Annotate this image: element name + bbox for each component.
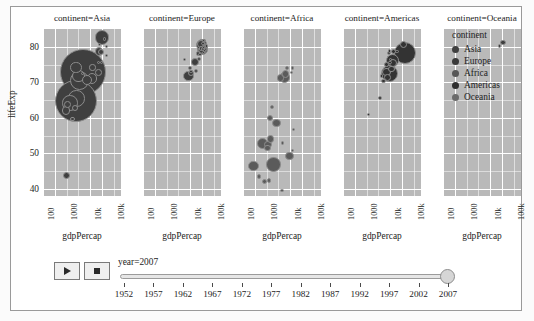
legend-item-africa[interactable]: Africa (452, 67, 526, 79)
grid-line-horizontal (243, 118, 321, 119)
slider-tick-label[interactable]: 1972 (233, 289, 251, 299)
y-axis-tick: 70 (30, 77, 39, 87)
data-point[interactable] (380, 74, 383, 77)
x-axis-tick: 100k (517, 203, 526, 220)
slider-tick-label[interactable]: 1977 (262, 289, 280, 299)
data-point[interactable] (400, 41, 407, 48)
pause-button[interactable] (84, 262, 110, 280)
slider-tick-mark (419, 283, 420, 287)
data-point[interactable] (257, 174, 261, 178)
data-point[interactable] (291, 149, 294, 152)
data-point[interactable] (81, 72, 84, 75)
legend-item-asia[interactable]: Asia (452, 43, 526, 55)
grid-line-horizontal (43, 171, 121, 172)
x-axis-tick: 10k (494, 207, 503, 220)
slider-handle[interactable] (440, 269, 455, 284)
grid-line-horizontal (243, 100, 321, 101)
data-point[interactable] (205, 44, 208, 47)
data-point[interactable] (202, 39, 205, 42)
data-point[interactable] (285, 152, 293, 160)
data-point[interactable] (100, 61, 103, 64)
slider-rail[interactable] (120, 274, 450, 279)
slider-tick-label[interactable]: 1982 (292, 289, 310, 299)
legend-item-label: Americas (464, 79, 500, 91)
play-button[interactable] (54, 262, 80, 280)
y-axis-tick: 80 (30, 42, 39, 52)
legend-item-label: Africa (464, 67, 488, 79)
data-point[interactable] (280, 189, 283, 192)
slider-tick-label[interactable]: 1962 (174, 289, 192, 299)
legend-item-americas[interactable]: Americas (452, 79, 526, 91)
legend-marker-icon (452, 82, 459, 89)
data-point[interactable] (267, 115, 273, 121)
grid-line-horizontal (343, 171, 421, 172)
data-point[interactable] (367, 113, 371, 117)
data-point[interactable] (291, 66, 294, 69)
data-point[interactable] (105, 54, 108, 57)
data-point[interactable] (63, 172, 70, 179)
slider-tick-label[interactable]: 1997 (380, 289, 398, 299)
plot-area[interactable] (43, 29, 121, 196)
slider-tick-label[interactable]: 1957 (144, 289, 162, 299)
data-point[interactable] (272, 119, 280, 127)
slider-tick-label[interactable]: 1952 (115, 289, 133, 299)
data-point[interactable] (270, 105, 274, 109)
x-axis-tick: 100 (147, 207, 156, 220)
grid-line-horizontal (343, 118, 421, 119)
data-point[interactable] (103, 37, 106, 40)
grid-line-horizontal (343, 65, 421, 66)
slider-tick-label[interactable]: 2007 (439, 289, 457, 299)
data-point[interactable] (395, 50, 398, 53)
data-point[interactable] (105, 45, 108, 48)
legend-item-europe[interactable]: Europe (452, 55, 526, 67)
data-point[interactable] (194, 69, 198, 73)
data-point[interactable] (292, 128, 295, 131)
data-point[interactable] (248, 161, 258, 171)
scatter-facet-plot: lifeExp 8070605040 100100010k100kgdpPerc… (0, 0, 534, 321)
plot-area[interactable] (143, 29, 221, 196)
data-point[interactable] (266, 157, 281, 172)
data-point[interactable] (89, 64, 95, 70)
data-point[interactable] (290, 71, 293, 74)
slider-tick-mark (301, 283, 302, 287)
data-point[interactable] (267, 135, 275, 143)
grid-line-horizontal (143, 82, 221, 83)
legend-item-label: Oceania (464, 91, 495, 103)
play-triangle-icon (64, 267, 71, 275)
grid-line-horizontal (43, 47, 121, 48)
facet-title: continent=Oceania (372, 13, 534, 23)
data-point[interactable] (267, 178, 271, 182)
slider-tick-mark (330, 283, 331, 287)
legend-item-oceania[interactable]: Oceania (452, 91, 526, 103)
data-point[interactable] (70, 117, 75, 122)
y-axis-title: lifeExp (7, 102, 17, 118)
data-point[interactable] (98, 49, 104, 55)
facet-americas: continent=Americas (343, 29, 421, 196)
data-point[interactable] (183, 58, 186, 61)
grid-line-horizontal (343, 189, 421, 190)
data-point[interactable] (197, 57, 201, 61)
data-point[interactable] (198, 53, 201, 56)
legend-title: continent (452, 30, 526, 40)
slider-tick-label[interactable]: 1967 (203, 289, 221, 299)
data-point[interactable] (388, 61, 391, 64)
grid-line-horizontal (243, 47, 321, 48)
plot-area[interactable] (243, 29, 321, 196)
legend-marker-icon (452, 94, 459, 101)
slider-tick-label[interactable]: 1987 (321, 289, 339, 299)
grid-line-horizontal (243, 171, 321, 172)
slider-tick-label[interactable]: 2002 (409, 289, 427, 299)
data-point[interactable] (285, 66, 289, 70)
slider-tick-label[interactable]: 1992 (350, 289, 368, 299)
data-point[interactable] (264, 145, 271, 152)
data-point[interactable] (70, 62, 82, 74)
data-point[interactable] (281, 141, 284, 144)
x-axis-tick: 100 (47, 207, 56, 220)
grid-line-horizontal (143, 118, 221, 119)
plot-area[interactable] (343, 29, 421, 196)
data-point[interactable] (189, 70, 192, 73)
x-axis-tick: 10k (294, 207, 303, 220)
data-point[interactable] (64, 101, 71, 108)
data-point[interactable] (95, 69, 102, 76)
data-point[interactable] (282, 70, 289, 77)
